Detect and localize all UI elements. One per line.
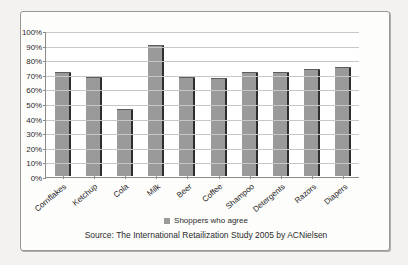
chart-legend: Shoppers who agree [21, 216, 391, 225]
bar-group [47, 32, 359, 176]
y-axis-label: 70% [26, 71, 42, 80]
y-axis-tick [43, 90, 46, 91]
y-axis-tick [43, 163, 46, 164]
bar[interactable] [55, 72, 71, 176]
y-axis-tick [43, 105, 46, 106]
x-axis-label: Razors [293, 182, 318, 205]
bar-slot [297, 32, 328, 176]
y-axis-label: 60% [26, 86, 42, 95]
gridline [46, 163, 359, 164]
bar-slot [234, 32, 265, 176]
plot-area: 0%10%20%30%40%50%60%70%80%90%100% [45, 32, 359, 178]
bar-slot [203, 32, 234, 176]
y-axis-label: 10% [26, 159, 42, 168]
gridline [46, 32, 359, 33]
bar[interactable] [86, 77, 102, 176]
x-axis-label: Diapers [323, 182, 350, 207]
bar-slot [109, 32, 140, 176]
bar[interactable] [273, 72, 289, 176]
bar-slot [78, 32, 109, 176]
bar[interactable] [148, 45, 164, 176]
y-axis-tick [43, 61, 46, 62]
y-axis-tick [43, 178, 46, 179]
x-axis-label: Beer [175, 182, 194, 200]
source-note: Source: The International Retailization … [21, 230, 391, 240]
chart-frame: 0%10%20%30%40%50%60%70%80%90%100% Cornfl… [20, 11, 390, 251]
chart-page: 0%10%20%30%40%50%60%70%80%90%100% Cornfl… [0, 0, 408, 265]
bar-slot [328, 32, 359, 176]
legend-label: Shoppers who agree [174, 216, 248, 225]
y-axis-label: 80% [26, 57, 42, 66]
bar[interactable] [179, 77, 195, 176]
y-axis-label: 30% [26, 130, 42, 139]
bar-slot [141, 32, 172, 176]
gridline [46, 90, 359, 91]
y-axis-label: 0% [31, 174, 42, 183]
x-axis-label: Milk [145, 182, 162, 198]
y-axis-label: 100% [22, 28, 42, 37]
y-axis-tick [43, 120, 46, 121]
gridline [46, 47, 359, 48]
gridline [46, 120, 359, 121]
y-axis-label: 40% [26, 115, 42, 124]
bar-slot [265, 32, 296, 176]
y-axis-label: 20% [26, 144, 42, 153]
legend-swatch-icon [164, 218, 170, 224]
y-axis-tick [43, 134, 46, 135]
bar-slot [172, 32, 203, 176]
x-axis-label: Cola [112, 182, 130, 199]
y-axis-tick [43, 32, 46, 33]
bar[interactable] [304, 69, 320, 176]
gridline [46, 149, 359, 150]
bar[interactable] [211, 78, 227, 176]
y-axis-label: 90% [26, 42, 42, 51]
gridline [46, 134, 359, 135]
y-axis-label: 50% [26, 101, 42, 110]
bar[interactable] [242, 72, 258, 176]
gridline [46, 61, 359, 62]
y-axis-tick [43, 149, 46, 150]
bar[interactable] [335, 67, 351, 177]
gridline [46, 105, 359, 106]
gridline [46, 177, 359, 178]
y-axis-tick [43, 47, 46, 48]
x-axis-label: Coffee [201, 182, 225, 204]
y-axis-tick [43, 76, 46, 77]
gridline [46, 76, 359, 77]
bar-slot [47, 32, 78, 176]
